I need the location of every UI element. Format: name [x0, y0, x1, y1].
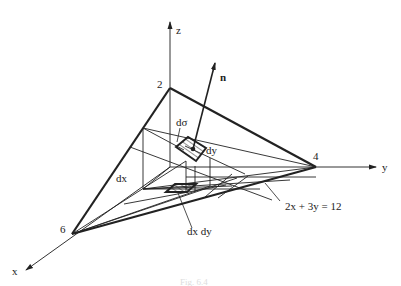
- surface-element-dsigma: [176, 137, 206, 161]
- x-intercept-label: 6: [60, 223, 66, 235]
- y-axis-label: y: [382, 161, 388, 173]
- boundary-equation-label: 2x + 3y = 12: [285, 200, 341, 212]
- x-axis-label: x: [12, 265, 18, 277]
- dx-label: dx: [116, 172, 128, 184]
- z-intercept-label: 2: [157, 78, 163, 90]
- figure-caption: Fig. 6.4: [180, 277, 208, 286]
- x-axis: [26, 167, 170, 270]
- dxdy-label: dx dy: [187, 225, 212, 237]
- surface-integral-diagram: z y x 2 4 6 n dσ dy dx dx dy 2x + 3y = 1…: [0, 0, 401, 286]
- dxdy-leader: [178, 193, 192, 228]
- z-axis-label: z: [176, 24, 181, 36]
- normal-label: n: [220, 71, 226, 83]
- dsigma-label: dσ: [176, 116, 188, 128]
- dsigma-leader: [177, 128, 180, 142]
- surface-triangle: [72, 88, 316, 234]
- dy-label: dy: [206, 144, 218, 156]
- normal-vector: [193, 63, 215, 149]
- y-intercept-label: 4: [313, 150, 319, 162]
